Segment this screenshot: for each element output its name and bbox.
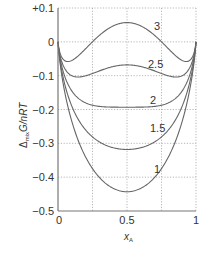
x-tick-label: 0.5 [119, 214, 134, 226]
y-tick-label: −0.1 [32, 70, 54, 82]
x-tick-label: 1 [193, 214, 199, 226]
curve-label: 2.5 [148, 58, 163, 70]
curve-label: 1 [154, 163, 160, 175]
chart: +0.10−0.1−0.2−0.3−0.4−0.500.51 32.521.51… [0, 0, 209, 256]
y-tick-label: −0.4 [32, 171, 54, 183]
curve-label: 3 [154, 20, 160, 32]
tick-labels: +0.10−0.1−0.2−0.3−0.4−0.500.51 [32, 2, 199, 226]
curve-2 [58, 42, 196, 107]
y-tick-label: +0.1 [32, 2, 54, 14]
curve-label: 2 [150, 94, 156, 106]
grid [58, 8, 196, 211]
x-axis-label: xA [123, 231, 133, 243]
curve-label: 1.5 [150, 122, 165, 134]
x-tick-label: 0 [56, 214, 62, 226]
y-tick-label: −0.5 [32, 205, 54, 217]
y-tick-label: −0.3 [32, 137, 54, 149]
y-axis-label: ΔmixG/nRT [18, 102, 30, 148]
y-tick-label: 0 [48, 36, 54, 48]
y-tick-label: −0.2 [32, 104, 54, 116]
